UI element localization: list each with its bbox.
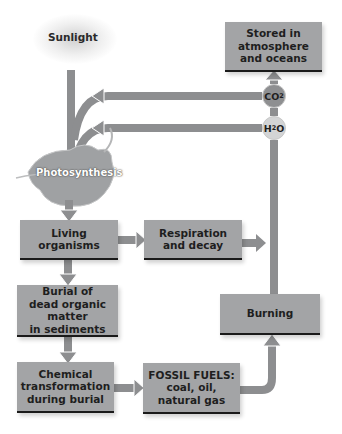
stored-line-1: Stored in xyxy=(238,27,309,40)
living-to-respiration-arrow xyxy=(118,231,146,249)
fossil-line-2: coal, oil, xyxy=(148,381,234,394)
living-line-1: Living xyxy=(38,227,100,240)
chemical-line-3: during burial xyxy=(21,393,110,406)
living-organisms-box: Living organisms xyxy=(20,220,118,260)
carbon-cycle-diagram: Sunlight Photosynthesis Stored in atmosp… xyxy=(0,0,342,434)
chemical-line-1: Chemical xyxy=(21,368,110,381)
stored-line-3: and oceans xyxy=(238,52,309,65)
respiration-decay-box: Respiration and decay xyxy=(144,220,242,260)
fossil-fuels-box: FOSSIL FUELS: coal, oil, natural gas xyxy=(143,363,240,414)
burial-to-chemical-arrow xyxy=(59,337,77,364)
h2o-tail: O xyxy=(276,123,284,134)
sunlight-label: Sunlight xyxy=(48,31,98,43)
burning-box: Burning xyxy=(220,294,320,335)
living-to-burial-arrow xyxy=(59,260,77,286)
burial-line-3: in sediments xyxy=(20,323,115,336)
burial-line-1: Burial of xyxy=(20,285,115,298)
chemical-to-fossil-arrow xyxy=(114,379,144,397)
co2-base: CO xyxy=(264,91,279,102)
chemical-line-2: transformation xyxy=(21,380,110,393)
stored-line-2: atmosphere xyxy=(238,40,309,53)
burial-line-2: dead organic matter xyxy=(20,298,115,323)
burial-box: Burial of dead organic matter in sedimen… xyxy=(17,285,118,337)
co2-sub: 2 xyxy=(279,92,284,100)
fossil-line-1: FOSSIL FUELS: xyxy=(148,369,234,382)
respiration-line-2: and decay xyxy=(159,239,227,252)
fossil-line-3: natural gas xyxy=(148,394,234,407)
stored-atmosphere-box: Stored in atmosphere and oceans xyxy=(225,22,322,72)
burning-line-1: Burning xyxy=(247,307,294,320)
h2o-base: H xyxy=(264,123,272,134)
h2o-molecule: H2O xyxy=(262,116,286,140)
living-line-2: organisms xyxy=(38,239,100,252)
photosynthesis-label: Photosynthesis xyxy=(36,167,123,178)
respiration-line-1: Respiration xyxy=(159,227,227,240)
chemical-transformation-box: Chemical transformation during burial xyxy=(17,362,114,413)
respiration-to-atmosphere-arrow xyxy=(242,234,266,252)
fossil-to-burning-arrow xyxy=(240,334,281,390)
co2-molecule: CO2 xyxy=(262,84,286,108)
